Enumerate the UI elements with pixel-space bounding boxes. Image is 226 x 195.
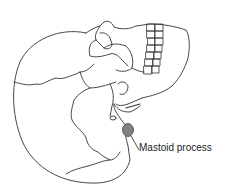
mastoid-process-label: Mastoid process	[139, 142, 212, 153]
face-outline	[86, 21, 189, 105]
suture	[14, 64, 94, 85]
suture	[66, 160, 110, 174]
leader-line	[131, 136, 139, 150]
teeth	[144, 24, 163, 74]
skull-illustration	[0, 0, 226, 195]
mastoid-process	[123, 124, 134, 137]
cranium-outline	[14, 32, 130, 184]
ear-canal	[110, 116, 116, 120]
suture	[71, 88, 120, 160]
